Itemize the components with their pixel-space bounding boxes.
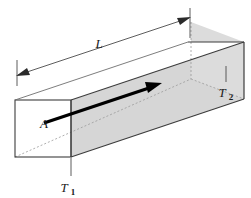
figure-container: L A T 1 T 2	[0, 0, 251, 198]
t2-base: T	[218, 85, 226, 100]
temperature-hot-label: T 1	[60, 180, 75, 197]
t1-base: T	[60, 180, 68, 195]
t1-subscript: 1	[71, 187, 76, 197]
heat-conduction-diagram: L A T 1 T 2	[0, 0, 251, 198]
t2-subscript: 2	[229, 92, 234, 102]
area-label: A	[39, 116, 48, 131]
length-label: L	[94, 36, 102, 51]
